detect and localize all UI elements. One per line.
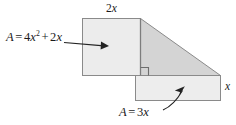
left-area-label: A=4x2+2x [6, 31, 62, 44]
left-area-operator: + [40, 30, 50, 44]
bottom-area-variable: x [143, 105, 149, 119]
triangle-shape [141, 19, 221, 76]
right-height-variable: x [225, 80, 230, 92]
top-width-variable: x [112, 2, 117, 14]
left-rectangle-shape [83, 19, 141, 76]
bottom-area-label: A=3x [119, 106, 149, 119]
left-area-term2-variable: x [56, 30, 62, 44]
bottom-area-equals: = [127, 105, 137, 119]
figure-canvas [0, 0, 236, 125]
top-width-label: 2x [106, 3, 117, 15]
left-area-name: A [6, 30, 14, 44]
bottom-area-name: A [119, 105, 127, 119]
left-area-equals: = [14, 30, 24, 44]
geometry-figure: 2x x A=4x2+2x A=3x [0, 0, 236, 125]
right-height-label: x [225, 81, 230, 93]
